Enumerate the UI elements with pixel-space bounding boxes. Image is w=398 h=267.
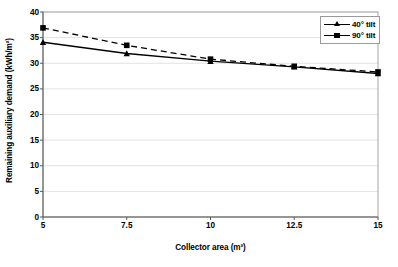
y-axis-tick-label: 15 [17,136,39,145]
legend-swatch-square-solid [324,30,350,41]
data-point-square [375,69,381,75]
y-axis-title: Remaining auxiliary demand (kWh/m²) [3,2,17,219]
y-axis-tick-label: 25 [17,84,39,93]
legend-swatch-triangle-solid [324,19,350,30]
x-axis-tick-label: 5 [23,221,63,230]
legend-item-40-tilt: 40° tilt [324,19,375,30]
legend-label-90-tilt: 90° tilt [350,31,375,40]
x-axis-tick-label: 15 [358,221,398,230]
line-chart: 0510152025303540 57.51012.515 Remaining … [0,0,398,267]
y-axis-tick-label: 20 [17,110,39,119]
x-axis-tick-label: 12.5 [274,221,314,230]
data-point-square [40,25,46,31]
y-axis-tick-label: 35 [17,33,39,42]
x-axis-tick-label: 7.5 [107,221,147,230]
legend-label-40-tilt: 40° tilt [350,20,375,29]
y-axis-tick-label: 10 [17,161,39,170]
y-axis-tick-label: 30 [17,59,39,68]
legend-item-90-tilt: 90° tilt [324,30,375,41]
y-axis-tick-label: 40 [17,8,39,17]
chart-legend: 40° tilt 90° tilt [320,16,380,44]
x-axis-tick-label: 10 [191,221,231,230]
data-point-square [208,56,214,62]
y-axis-tick-label: 5 [17,187,39,196]
data-point-square [291,64,297,70]
data-point-square [124,43,130,49]
x-axis-title: Collector area (m²) [43,243,378,252]
